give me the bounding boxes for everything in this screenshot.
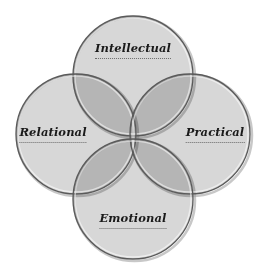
label-practical: Practical: [186, 125, 245, 143]
label-intellectual: Intellectual: [95, 41, 171, 59]
venn-diagram: Intellectual Relational Practical Emotio…: [0, 0, 265, 275]
label-emotional: Emotional: [99, 211, 166, 229]
label-relational: Relational: [19, 125, 86, 143]
